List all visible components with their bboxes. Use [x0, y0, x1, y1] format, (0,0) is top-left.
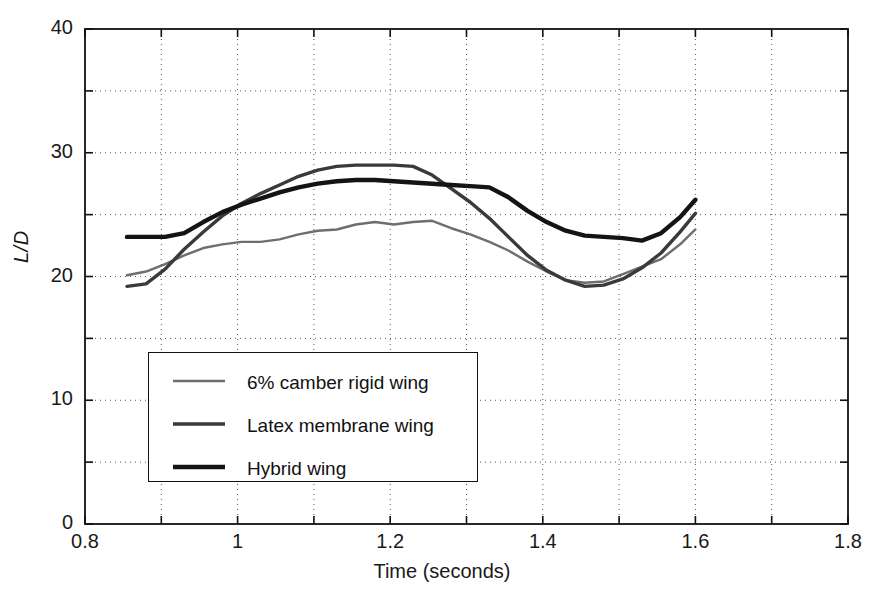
- legend-item-0[interactable]: 6% camber rigid wing: [149, 359, 477, 402]
- x-tick-label-3: 1.4: [513, 530, 573, 553]
- chart-canvas: [0, 0, 884, 608]
- x-tick-label-2: 1.2: [360, 530, 420, 553]
- x-axis-label: Time (seconds): [0, 560, 884, 583]
- legend-label-0: 6% camber rigid wing: [247, 373, 429, 392]
- y-tick-label-0: 0: [27, 511, 73, 534]
- legend-item-1[interactable]: Latex membrane wing: [149, 402, 477, 445]
- legend-label-2: Hybrid wing: [247, 459, 346, 478]
- x-tick-label-4: 1.6: [665, 530, 725, 553]
- legend-label-1: Latex membrane wing: [247, 416, 434, 435]
- legend: 6% camber rigid wing Latex membrane wing…: [148, 352, 478, 482]
- x-tick-label-1: 1: [208, 530, 268, 553]
- legend-line-sample-0: [171, 369, 227, 393]
- x-tick-label-5: 1.8: [818, 530, 878, 553]
- series-line-2: [127, 180, 695, 241]
- legend-item-2[interactable]: Hybrid wing: [149, 445, 477, 488]
- y-tick-label-3: 30: [27, 140, 73, 163]
- legend-line-sample-2: [171, 455, 227, 479]
- series-line-0: [127, 221, 695, 283]
- legend-line-sample-1: [171, 412, 227, 436]
- y-axis-label: L/D: [10, 230, 33, 263]
- figure-container: L/D Time (seconds) 0.811.21.41.61.8 0102…: [0, 0, 884, 608]
- y-tick-label-1: 10: [27, 387, 73, 410]
- y-tick-label-4: 40: [27, 16, 73, 39]
- y-tick-label-2: 20: [27, 264, 73, 287]
